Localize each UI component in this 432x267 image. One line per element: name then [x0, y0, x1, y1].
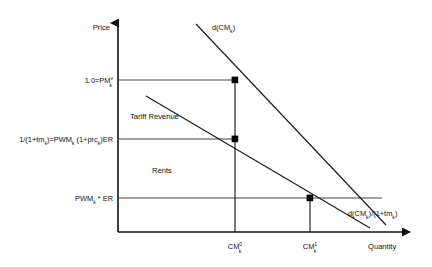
price-label-pm-sup: v: [110, 75, 113, 81]
price-label-tariff-mid: )=PWM: [47, 135, 72, 144]
marker-pm-demand-intersection: [232, 77, 239, 84]
demand-adjusted-label-main: d(CM: [348, 209, 366, 218]
price-label-tariff-tail2: )ER: [100, 135, 113, 144]
y-axis-label: Price: [93, 23, 110, 32]
price-label-world-tail: * ER: [96, 194, 113, 203]
demand-adjusted-label-tail: ): [395, 209, 397, 218]
demand-curve-primary: [196, 24, 386, 225]
economics-diagram: Price Quantity 1.0=PMvk 1/(1+tmk)=PWMk (…: [0, 0, 432, 267]
demand-primary-label-main: d(CM: [212, 23, 230, 32]
cm-zero-main: CM: [228, 242, 240, 251]
demand-primary-label-tail: ): [233, 23, 235, 32]
price-label-tariff-inclusive: 1/(1+tmk)=PWMk (1+prck)ER: [19, 135, 113, 146]
price-label-tariff-main: 1/(1+tm: [19, 135, 44, 144]
price-label-pm-sub: k: [109, 82, 112, 88]
price-label-pm: 1.0=PMvk: [85, 75, 114, 88]
demand-adjusted-label-mid: )/(1+tm: [369, 209, 393, 218]
price-label-world-main: PWM: [75, 194, 93, 203]
demand-curve-adjusted-label: d(CMk)/(1+tmk): [348, 209, 397, 220]
cm-one-sub: k: [314, 248, 317, 254]
marker-tariff-demand-intersection: [232, 136, 239, 143]
region-label-rents: Rents: [152, 166, 172, 175]
quantity-tick-label-cm-one: CM1k: [303, 241, 318, 254]
cm-one-main: CM: [303, 242, 315, 251]
cm-zero-sub: k: [239, 248, 242, 254]
price-label-tariff-tail: (1+prc: [74, 135, 98, 144]
cm-zero-sup: 0: [239, 241, 242, 247]
cm-one-sup: 1: [314, 241, 317, 247]
x-axis-label: Quantity: [368, 242, 396, 251]
region-label-tariff-revenue: Tariff Revenue: [130, 112, 179, 121]
price-label-world-price: PWMk * ER: [75, 194, 113, 205]
quantity-tick-label-cm-zero: CM0k: [228, 241, 243, 254]
demand-curve-primary-label: d(CMk): [212, 23, 235, 34]
demand-curve-tariff-adjusted: [146, 96, 370, 228]
diagram-canvas: Price Quantity 1.0=PMvk 1/(1+tmk)=PWMk (…: [0, 0, 432, 267]
price-label-pm-main: 1.0=PM: [85, 76, 111, 85]
marker-world-demand-intersection: [307, 195, 314, 202]
